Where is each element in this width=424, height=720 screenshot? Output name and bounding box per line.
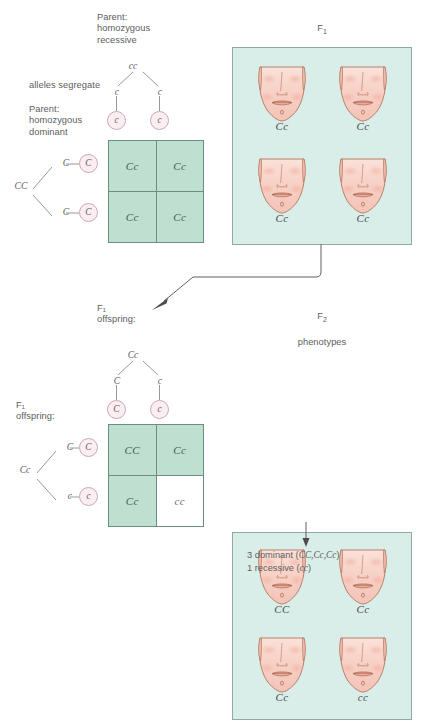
f2-to-ratio-arrow bbox=[296, 522, 316, 548]
f2-face-2-label: Cc bbox=[253, 691, 311, 703]
f1-phenotypes-panel: Cc Cc Cc Cc bbox=[232, 47, 412, 245]
ratio-recessive-line: 1 recessive (cc) bbox=[247, 562, 311, 574]
f2-phenotypes-title: F2 phenotypes bbox=[262, 300, 382, 348]
cross2-left-gamete-bottom: c bbox=[79, 487, 98, 506]
punnett2-cell-0-text: CC bbox=[125, 444, 140, 456]
ratio-recessive-genotypes: cc bbox=[300, 563, 308, 573]
cross2-top-branch-left: C bbox=[107, 375, 127, 386]
parent-homozygous-recessive-label: Parent: homozygous recessive bbox=[97, 12, 150, 46]
punnett2-cell-0: CC bbox=[109, 425, 156, 475]
f1-offspring-left-label: F₁ offspring: bbox=[16, 400, 55, 423]
ratio-recessive-prefix: 1 recessive ( bbox=[247, 563, 300, 573]
f2-face-1-label: Cc bbox=[334, 603, 392, 615]
punnett2-cell-2: Cc bbox=[109, 476, 156, 526]
cross2-left-gamete-top-text: C bbox=[85, 443, 91, 452]
cross1-top-gamete-left-text: c bbox=[114, 116, 118, 125]
cross1-left-branch-bottom: C bbox=[56, 206, 76, 217]
punnett1-cell-3-text: Cc bbox=[173, 211, 186, 223]
f1-title-subscript: 1 bbox=[323, 28, 327, 35]
cross1-left-gamete-top-text: C bbox=[85, 159, 91, 168]
ratio-dominant-genotypes: CC,Cc,Cc bbox=[299, 550, 337, 560]
f1-offspring-top-label: F₁ offspring: bbox=[97, 303, 136, 326]
f1-face-2: Cc bbox=[253, 156, 311, 228]
cross1-top-gamete-right: c bbox=[150, 111, 169, 130]
punnett2-cell-2-text: Cc bbox=[126, 495, 139, 507]
f1-face-1-label: Cc bbox=[334, 120, 392, 132]
ratio-recessive-suffix: ) bbox=[308, 563, 311, 573]
f1-face-1: Cc bbox=[334, 64, 392, 136]
punnett1-cell-3: Cc bbox=[157, 192, 204, 242]
f1-face-0: Cc bbox=[253, 64, 311, 136]
f2-face-3: cc bbox=[334, 635, 392, 707]
cross1-left-gamete-bottom-text: C bbox=[85, 208, 91, 217]
ratio-dominant-line: 3 dominant (CC,Cc,Cc) bbox=[247, 549, 340, 561]
punnett-square-cross1: Cc Cc Cc Cc bbox=[108, 140, 204, 243]
parent-homozygous-dominant-label: Parent: homozygous dominant bbox=[29, 104, 82, 138]
punnett1-cell-1-text: Cc bbox=[173, 160, 186, 172]
punnett1-cell-0: Cc bbox=[109, 141, 156, 191]
f2-title-word: phenotypes bbox=[298, 337, 347, 347]
f1-face-2-label: Cc bbox=[253, 212, 311, 224]
f2-face-1: Cc bbox=[334, 547, 392, 619]
punnett1-cell-1: Cc bbox=[157, 141, 204, 191]
cross2-left-gamete-bottom-text: c bbox=[86, 492, 90, 501]
cross1-top-gamete-left: c bbox=[107, 111, 126, 130]
f2-face-0-label: CC bbox=[253, 603, 311, 615]
f2-face-2: Cc bbox=[253, 635, 311, 707]
cross1-top-gamete-right-text: c bbox=[157, 116, 161, 125]
alleles-segregate-label: alleles segregate bbox=[29, 80, 100, 91]
cross2-left-branch-bottom: c bbox=[60, 490, 80, 501]
ratio-dominant-suffix: ) bbox=[336, 550, 339, 560]
cross2-left-branch-top: C bbox=[60, 441, 80, 452]
cross2-top-branch-right: c bbox=[150, 375, 170, 386]
cross1-left-gamete-top: C bbox=[79, 154, 98, 173]
punnett2-cell-1: Cc bbox=[157, 425, 204, 475]
f2-title-subscript: 2 bbox=[323, 316, 327, 323]
cross2-top-gamete-right: c bbox=[150, 400, 169, 419]
cross1-top-branch-right: c bbox=[150, 86, 170, 97]
cross2-left-gamete-top: C bbox=[79, 438, 98, 457]
cross2-top-gamete-left-text: C bbox=[113, 405, 119, 414]
punnett-square-cross2: CC Cc Cc cc bbox=[108, 424, 204, 527]
punnett2-cell-1-text: Cc bbox=[173, 444, 186, 456]
f2-face-3-label: cc bbox=[334, 691, 392, 703]
cross2-top-gamete-left: C bbox=[107, 400, 126, 419]
punnett1-cell-2: Cc bbox=[109, 192, 156, 242]
cross2-top-gamete-right-text: c bbox=[157, 405, 161, 414]
ratio-dominant-prefix: 3 dominant ( bbox=[247, 550, 299, 560]
cross1-left-branch-top: C bbox=[56, 157, 76, 168]
cross1-top-branch-left: c bbox=[107, 86, 127, 97]
punnett2-cell-3-text: cc bbox=[175, 495, 185, 507]
punnett1-cell-0-text: Cc bbox=[126, 160, 139, 172]
punnett1-cell-2-text: Cc bbox=[126, 211, 139, 223]
cross1-left-gamete-bottom: C bbox=[79, 203, 98, 222]
f1-face-3: Cc bbox=[334, 156, 392, 228]
punnett2-cell-3: cc bbox=[157, 476, 204, 526]
f1-face-0-label: Cc bbox=[253, 120, 311, 132]
f1-face-3-label: Cc bbox=[334, 212, 392, 224]
